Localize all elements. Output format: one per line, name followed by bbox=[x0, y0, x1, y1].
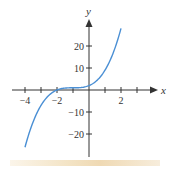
y-tick-label-neg20: −20 bbox=[68, 129, 84, 140]
page-edge-strip bbox=[10, 160, 160, 166]
y-tick-label-neg10: −10 bbox=[68, 107, 84, 118]
x-axis-label: x bbox=[160, 84, 166, 96]
x-tick-label-2: 2 bbox=[119, 95, 124, 106]
x-tick-label-neg4: −4 bbox=[20, 95, 31, 106]
chart-canvas: −4 −2 2 20 10 −10 −20 x y bbox=[0, 0, 176, 170]
y-axis-label: y bbox=[85, 5, 91, 17]
y-axis-arrow-icon bbox=[86, 19, 93, 27]
y-tick-label-10: 10 bbox=[74, 63, 84, 74]
x-axis-arrow-icon bbox=[150, 87, 158, 94]
chart-figure: −4 −2 2 20 10 −10 −20 x y bbox=[0, 0, 176, 170]
x-tick-label-neg2: −2 bbox=[52, 95, 63, 106]
y-tick-label-20: 20 bbox=[74, 41, 84, 52]
